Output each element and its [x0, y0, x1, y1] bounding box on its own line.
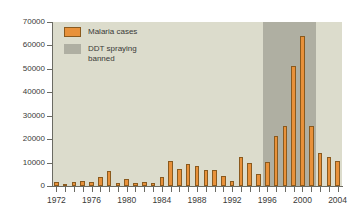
x-axis-tick-1997	[276, 187, 277, 192]
bar-2004	[335, 161, 340, 186]
gray-square-swatch-icon	[64, 44, 81, 54]
y-axis-tick-label: 10000	[1, 159, 45, 167]
bar-1997	[274, 136, 279, 186]
y-axis-tick-60000	[47, 45, 52, 46]
bar-1984	[160, 177, 165, 186]
x-axis-tick-1999	[294, 187, 295, 192]
x-axis-tick-2002	[320, 187, 321, 192]
bar-2001	[309, 126, 314, 186]
x-axis-tick-1990	[215, 187, 216, 192]
bar-1994	[247, 163, 252, 186]
x-axis-tick-1993	[241, 187, 242, 192]
x-axis-tick-1982	[144, 187, 145, 192]
x-axis-tick-1995	[259, 187, 260, 192]
y-axis-tick-label: 0	[1, 182, 45, 190]
bar-1985	[168, 161, 173, 186]
y-axis-tick-label: 40000	[1, 88, 45, 96]
bar-1991	[221, 176, 226, 186]
legend-item-malaria-cases: Malaria cases	[64, 27, 137, 37]
x-axis-tick-1991	[223, 187, 224, 192]
y-axis-tick-label: 70000	[1, 18, 45, 26]
bar-1990	[212, 170, 217, 186]
y-axis-tick-50000	[47, 69, 52, 70]
bar-2000	[300, 36, 305, 186]
bar-1999	[291, 66, 296, 186]
x-axis-tick-1977	[100, 187, 101, 192]
x-axis-tick-1984	[162, 187, 163, 192]
x-axis-tick-label: 1992	[223, 196, 242, 205]
x-axis-tick-2004	[338, 187, 339, 192]
y-axis-tick-30000	[47, 116, 52, 117]
y-axis-tick-20000	[47, 139, 52, 140]
bar-1993	[239, 157, 244, 186]
x-axis-tick-label: 1984	[152, 196, 171, 205]
bar-2003	[327, 157, 332, 186]
bar-2002	[318, 153, 323, 187]
bar-1989	[204, 170, 209, 186]
x-axis-tick-1980	[127, 187, 128, 192]
x-axis-tick-label: 1980	[117, 196, 136, 205]
legend-item-label: DDT spraying banned	[88, 44, 137, 63]
x-axis-tick-1987	[188, 187, 189, 192]
x-axis-tick-label: 1988	[188, 196, 207, 205]
legend-item-label: Malaria cases	[88, 27, 137, 37]
bar-1995	[256, 174, 261, 186]
x-axis-tick-label: 1972	[47, 196, 66, 205]
bar-1996	[265, 162, 270, 186]
y-axis-tick-0	[47, 186, 52, 187]
x-axis-tick-1994	[250, 187, 251, 192]
bar-1986	[177, 169, 182, 186]
x-axis-tick-label: 2000	[293, 196, 312, 205]
x-axis-tick-2001	[311, 187, 312, 192]
orange-square-swatch-icon	[64, 27, 81, 37]
y-axis-tick-label: 30000	[1, 112, 45, 120]
x-axis-tick-1981	[135, 187, 136, 192]
y-axis-tick-label: 20000	[1, 135, 45, 143]
x-axis-tick-1979	[118, 187, 119, 192]
y-axis-labels: 010000200003000040000500006000070000	[0, 0, 45, 224]
y-axis-line	[52, 22, 53, 186]
x-axis-tick-1973	[65, 187, 66, 192]
legend-item-ddt-spraying-banned: DDT spraying banned	[64, 44, 137, 63]
x-axis-tick-1996	[267, 187, 268, 192]
x-axis-tick-1985	[171, 187, 172, 192]
x-axis-tick-1983	[153, 187, 154, 192]
x-axis-tick-2003	[329, 187, 330, 192]
x-axis-tick-label: 2004	[328, 196, 347, 205]
y-axis-tick-40000	[47, 92, 52, 93]
x-axis-tick-1989	[206, 187, 207, 192]
bar-1998	[283, 126, 288, 186]
x-axis-tick-label: 1976	[82, 196, 101, 205]
bar-1987	[186, 164, 191, 186]
x-axis-tick-2000	[302, 187, 303, 192]
y-axis-tick-label: 50000	[1, 65, 45, 73]
bar-1988	[195, 166, 200, 186]
x-axis-tick-1972	[56, 187, 57, 192]
y-axis-tick-label: 60000	[1, 41, 45, 49]
bar-1978	[107, 171, 112, 186]
malaria-cases-bar-chart: 010000200003000040000500006000070000 197…	[0, 0, 359, 224]
x-axis-tick-1975	[83, 187, 84, 192]
x-axis-tick-1988	[197, 187, 198, 192]
x-axis-tick-1974	[74, 187, 75, 192]
chart-legend: Malaria cases DDT spraying banned	[64, 27, 137, 70]
x-axis-tick-1998	[285, 187, 286, 192]
bar-1977	[98, 177, 103, 186]
y-axis-tick-10000	[47, 163, 52, 164]
x-axis-tick-1986	[179, 187, 180, 192]
x-axis-tick-1992	[232, 187, 233, 192]
x-axis-tick-label: 1996	[258, 196, 277, 205]
x-axis-tick-1978	[109, 187, 110, 192]
x-axis-tick-1976	[92, 187, 93, 192]
y-axis-tick-70000	[47, 22, 52, 23]
